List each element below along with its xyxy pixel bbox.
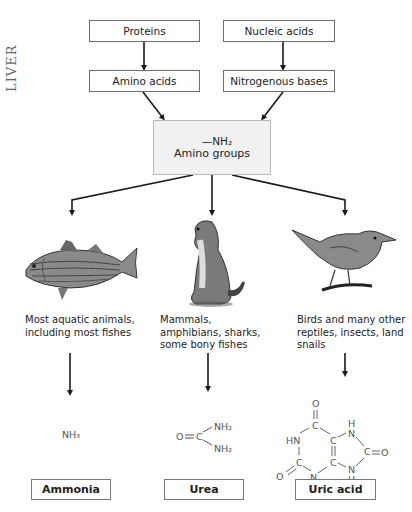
ammonia-box: Ammonia bbox=[31, 479, 111, 500]
svg-text:C: C bbox=[364, 446, 371, 457]
svg-text:O: O bbox=[381, 447, 388, 458]
svg-text:HN: HN bbox=[286, 435, 300, 446]
svg-text:N: N bbox=[348, 428, 355, 439]
svg-text:NH₂: NH₂ bbox=[214, 443, 232, 454]
svg-text:O: O bbox=[276, 471, 283, 482]
svg-text:C: C bbox=[296, 457, 303, 468]
uric-acid-box: Uric acid bbox=[295, 479, 376, 500]
svg-text:C: C bbox=[330, 457, 337, 468]
chemical-structures: NH₃ O C NH₂ NH₂ O C HN C O N H C C H N C… bbox=[0, 0, 412, 512]
svg-text:NH₂: NH₂ bbox=[214, 421, 232, 432]
svg-text:C: C bbox=[330, 435, 337, 446]
ammonia-formula: NH₃ bbox=[62, 429, 80, 440]
urea-structure: O C NH₂ NH₂ bbox=[176, 421, 232, 454]
svg-text:C: C bbox=[312, 420, 319, 431]
svg-text:O: O bbox=[312, 398, 319, 409]
svg-text:O: O bbox=[176, 431, 183, 442]
svg-text:C: C bbox=[196, 431, 203, 442]
urea-box: Urea bbox=[164, 479, 244, 500]
